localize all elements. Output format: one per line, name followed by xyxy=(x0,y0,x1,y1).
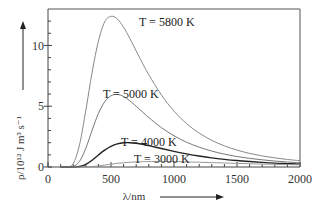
label-4000k: T = 4000 K xyxy=(121,135,177,149)
y-axis-label: ρ/10¹² J m³ s⁻¹ xyxy=(14,116,26,180)
x-tick-2000: 2000 xyxy=(288,172,312,186)
x-tick-1500: 1500 xyxy=(225,172,249,186)
label-5000k: T = 5000 K xyxy=(103,87,159,101)
y-tick-10: 10 xyxy=(32,39,44,53)
y-tick-5: 5 xyxy=(38,99,44,113)
x-tick-1000: 1000 xyxy=(162,172,186,186)
x-tick-500: 500 xyxy=(102,172,120,186)
x-tick-labels: 0 500 1000 1500 2000 xyxy=(45,172,312,186)
y-axis-arrow-icon xyxy=(20,21,26,90)
curve-5800k xyxy=(61,16,300,167)
x-axis-arrow-icon xyxy=(160,194,224,200)
x-tick-0: 0 xyxy=(45,172,51,186)
y-tick-labels: 0 5 10 xyxy=(32,39,44,174)
label-3000k: T = 3000 K xyxy=(134,152,190,166)
y-tick-0: 0 xyxy=(38,160,44,174)
blackbody-chart: 0 500 1000 1500 2000 0 5 10 T = 5800 K T… xyxy=(0,0,326,211)
curves xyxy=(61,16,300,167)
x-axis-label: λ/nm xyxy=(123,190,146,202)
label-5800k: T = 5800 K xyxy=(139,15,195,29)
